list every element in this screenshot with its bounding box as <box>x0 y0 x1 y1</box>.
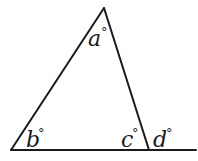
triangle-diagram: a ° b ° c ° d ° <box>0 0 198 161</box>
angle-letter-a: a <box>88 26 101 51</box>
angle-label-c: c ° <box>121 125 139 152</box>
degree-symbol-a: ° <box>101 24 108 39</box>
angle-label-a: a ° <box>88 24 108 51</box>
degree-symbol-b: ° <box>38 125 45 140</box>
degree-symbol-d: ° <box>166 125 173 140</box>
angle-label-d: d ° <box>153 125 173 152</box>
degree-symbol-c: ° <box>132 125 139 140</box>
angle-label-b: b ° <box>26 125 45 152</box>
angle-letter-d: d <box>153 127 167 152</box>
